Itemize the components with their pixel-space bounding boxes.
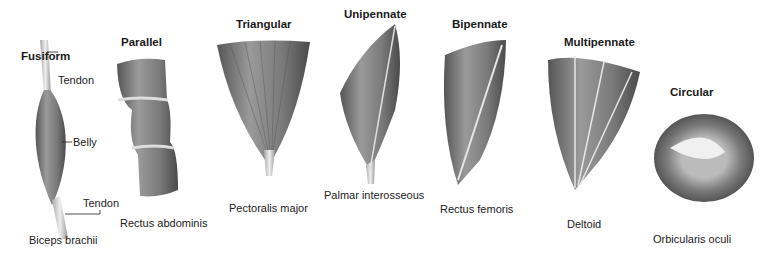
palmar-interosseous-label: Palmar interosseous (324, 189, 424, 201)
belly-callout: Belly (73, 136, 97, 148)
deltoid-label: Deltoid (567, 218, 601, 230)
circular-muscle-figure (654, 114, 754, 202)
rectus-femoris-label: Rectus femoris (440, 203, 513, 215)
rectus-abdominis-label: Rectus abdominis (120, 217, 207, 229)
parallel-muscle-figure (117, 59, 178, 197)
triangular-muscle-figure (217, 41, 310, 176)
parallel-title: Parallel (121, 36, 162, 48)
fusiform-title: Fusiform (21, 50, 70, 62)
bipennate-title: Bipennate (452, 18, 508, 30)
circular-title: Circular (670, 86, 713, 98)
tendon-callout-bottom: Tendon (83, 197, 119, 209)
triangular-title: Triangular (236, 18, 292, 30)
unipennate-title: Unipennate (344, 8, 407, 20)
muscle-shapes-illustration (0, 0, 764, 253)
orbicularis-oculi-label: Orbicularis oculi (653, 233, 731, 245)
pectoralis-major-label: Pectoralis major (229, 202, 308, 214)
biceps-brachii-label: Biceps brachii (29, 234, 97, 246)
tendon-callout-top: Tendon (58, 74, 94, 86)
unipennate-muscle-figure (340, 24, 400, 184)
multipennate-muscle-figure (548, 56, 640, 190)
multipennate-title: Multipennate (564, 36, 635, 48)
bipennate-muscle-figure (444, 40, 506, 185)
